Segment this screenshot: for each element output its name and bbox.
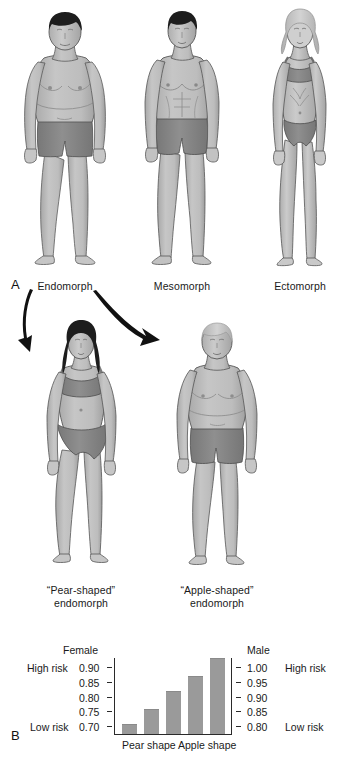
category-label-pear-shape: Pear shape <box>122 739 176 751</box>
label-endomorph: Endomorph <box>37 280 92 292</box>
apple-shaped-endomorph-figure <box>177 323 257 565</box>
left-tick-2: 0.80 <box>79 692 99 704</box>
label-pear-shaped-line1: “Pear-shaped” <box>47 584 115 596</box>
panel-a-illustration <box>0 0 351 640</box>
left-low-risk-label: Low risk <box>30 721 69 733</box>
bar-group <box>115 658 231 734</box>
right-tick-1: 0.95 <box>247 677 267 689</box>
waist-hip-ratio-chart: B Female Male High risk Low risk High ri… <box>0 640 351 761</box>
left-tick-mark-4 <box>107 726 112 727</box>
left-tick-mark-1 <box>107 682 112 683</box>
bar-1 <box>122 724 137 735</box>
arrow-to-pear-shaped <box>18 289 33 352</box>
left-tick-mark-0 <box>107 667 112 668</box>
left-tick-3: 0.75 <box>79 706 99 718</box>
right-low-risk-label: Low risk <box>285 721 324 733</box>
right-axis-title: Male <box>247 644 270 656</box>
left-high-risk-label: High risk <box>27 662 68 674</box>
right-tick-mark-0 <box>236 667 241 668</box>
panel-b-letter: B <box>11 729 20 743</box>
right-tick-mark-3 <box>236 711 241 712</box>
category-label-apple-shape: Apple shape <box>178 739 236 751</box>
label-ectomorph: Ectomorph <box>274 280 326 292</box>
left-tick-mark-2 <box>107 697 112 698</box>
left-tick-mark-3 <box>107 711 112 712</box>
arrow-to-apple-shaped <box>93 290 160 346</box>
right-high-risk-label: High risk <box>285 662 326 674</box>
bar-2 <box>144 709 159 734</box>
ectomorph-figure <box>273 9 326 266</box>
right-tick-4: 0.80 <box>247 721 267 733</box>
left-tick-0: 0.90 <box>79 662 99 674</box>
bar-5 <box>210 658 225 734</box>
chart-plot-area <box>114 658 232 735</box>
label-apple-shaped-line1: “Apple-shaped” <box>180 584 253 596</box>
right-tick-mark-1 <box>236 682 241 683</box>
mesomorph-figure <box>145 11 219 265</box>
label-mesomorph: Mesomorph <box>154 280 210 292</box>
bar-3 <box>166 691 181 734</box>
panel-a-letter: A <box>11 278 20 292</box>
label-pear-shaped-line2: endomorph <box>54 597 108 609</box>
bar-4 <box>188 676 203 734</box>
body-types-figure: A Endomorph Mesomorph Ectomorph “Pear-sh… <box>0 0 351 761</box>
left-axis-title: Female <box>63 644 98 656</box>
left-tick-1: 0.85 <box>79 677 99 689</box>
label-apple-shaped-line2: endomorph <box>190 597 244 609</box>
right-tick-mark-4 <box>236 726 241 727</box>
right-tick-mark-2 <box>236 697 241 698</box>
endomorph-figure <box>25 12 106 265</box>
right-tick-3: 0.85 <box>247 706 267 718</box>
pear-shaped-endomorph-figure <box>47 320 116 563</box>
right-tick-2: 0.90 <box>247 692 267 704</box>
right-tick-0: 1.00 <box>247 662 267 674</box>
left-tick-4: 0.70 <box>79 721 99 733</box>
